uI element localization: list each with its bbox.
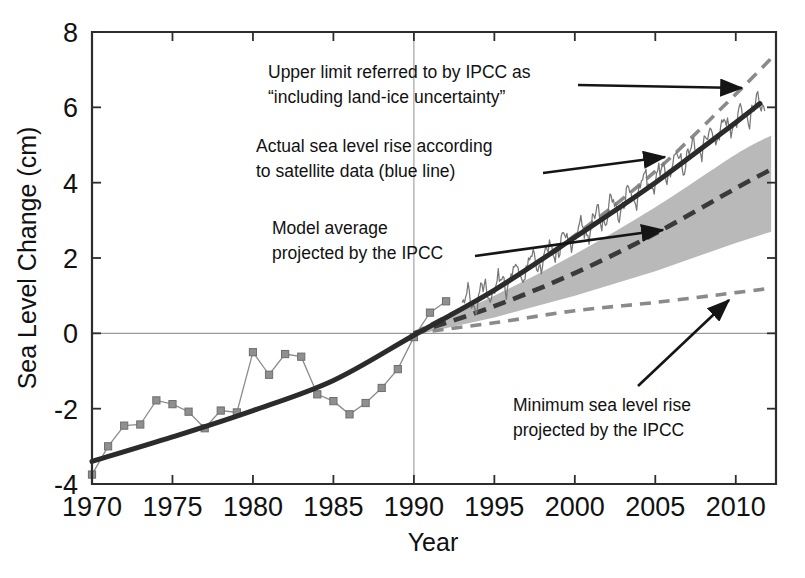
y-tick-label: 8 [63,18,78,48]
tide-gauge-marker [217,407,224,414]
tide-gauge-marker [153,397,160,404]
sea-level-chart-figure: 197019751980198519901995200020052010 -4-… [0,0,805,578]
tide-gauge-marker [249,349,256,356]
tide-gauge-marker [104,443,111,450]
x-tick-labels: 197019751980198519901995200020052010 [62,492,766,522]
annotation-text-line: Actual sea level rise according [256,136,492,156]
tide-gauge-marker [282,350,289,357]
x-tick-label: 1995 [464,492,524,522]
tide-gauge-marker [442,298,449,305]
x-tick-label: 1985 [303,492,363,522]
annotation-text-line: Model average [272,218,388,238]
tide-gauge-marker [362,399,369,406]
tide-gauge-marker [394,366,401,373]
tide-gauge-marker [314,391,321,398]
annotation-text-line: Upper limit referred to by IPCC as [268,62,531,82]
x-tick-label: 1980 [223,492,283,522]
y-tick-label: 0 [63,319,78,349]
x-axis-title: Year [408,528,459,556]
chart-svg: 197019751980198519901995200020052010 -4-… [0,0,805,578]
annotation-text-line: “including land-ice uncertainty” [268,87,506,107]
annotation-text-line: Minimum sea level rise [513,395,691,415]
tide-gauge-marker [378,384,385,391]
x-tick-label: 2010 [706,492,766,522]
y-tick-label: -4 [54,470,78,500]
tide-gauge-marker [346,411,353,418]
tide-gauge-marker [265,371,272,378]
y-tick-label: 2 [63,244,78,274]
tide-gauge-marker [137,421,144,428]
annotation-text-line: to satellite data (blue line) [256,161,455,181]
tide-gauge-marker [298,353,305,360]
tide-gauge-marker [330,398,337,405]
tide-gauge-marker [426,309,433,316]
x-tick-label: 1990 [384,492,444,522]
y-axis-title: Sea Level Change (cm) [13,127,41,390]
y-tick-label: 4 [63,169,78,199]
y-tick-label: 6 [63,93,78,123]
tide-gauge-marker [169,401,176,408]
x-tick-label: 2000 [545,492,605,522]
x-tick-label: 2005 [625,492,685,522]
annotation-text-line: projected by the IPCC [513,420,684,440]
x-tick-label: 1975 [142,492,202,522]
annotation-text-line: projected by the IPCC [272,243,443,263]
y-tick-label: -2 [54,395,78,425]
tide-gauge-marker [185,408,192,415]
tide-gauge-marker [121,422,128,429]
